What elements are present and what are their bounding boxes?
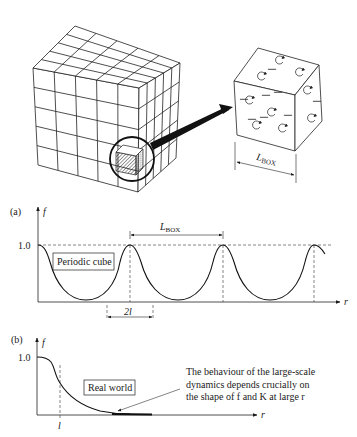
lbox-dimension-label: LBOX [254, 151, 278, 168]
periodic-cube-label-box: Periodic cube [53, 253, 114, 270]
panel-a-y-label: f [43, 206, 47, 217]
svg-text:Periodic cube: Periodic cube [57, 256, 112, 267]
panel-a-tag: (a) [10, 206, 21, 218]
panel-b-y-tick: 1.0 [18, 352, 31, 363]
turbulence-periodic-box-figure: LBOX (a) f r 1.0 Periodic cube LBOX 2l [0, 0, 357, 437]
panel-b-x-label: r [261, 409, 265, 420]
svg-text:Real world: Real world [88, 382, 132, 393]
panel-b-y-label: f [42, 337, 46, 348]
panel-b-l-label: l [58, 420, 61, 431]
large-lattice-cube [33, 26, 180, 192]
panel-b-annotation: The behaviour of the large-scale dynamic… [186, 366, 318, 402]
panel-a-lbox-label: LBOX [159, 221, 180, 234]
panel-b-tag: (b) [11, 334, 23, 346]
panel-b: (b) f r 1.0 l Real world The behaviour o… [11, 334, 318, 431]
panel-a-peak-guides [107, 245, 314, 320]
real-world-label-box: Real world [84, 380, 135, 395]
panel-a-y-tick: 1.0 [18, 240, 31, 251]
panel-b-tail-emphasis [112, 414, 152, 415]
panel-a-2l-label: 2l [124, 306, 132, 317]
panel-a: (a) f r 1.0 Periodic cube LBOX 2l [10, 206, 348, 320]
panel-a-x-label: r [344, 296, 348, 307]
